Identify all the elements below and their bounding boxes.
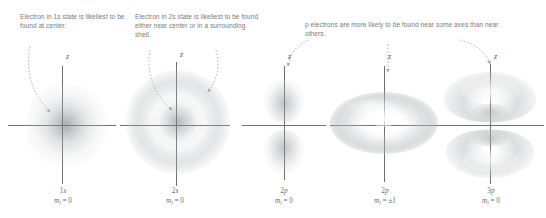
electron-lobe-lower-highlight	[462, 148, 518, 172]
electron-cloud-2s-core	[152, 96, 204, 148]
electron-lobe-upper	[264, 78, 304, 122]
z-axis-label: z	[180, 50, 183, 59]
quantum-number-3p-m0: ml = 0	[438, 197, 544, 206]
z-axis-label: z	[288, 52, 291, 61]
orbital-name-2s: 2s	[120, 186, 230, 195]
label-2s: 2s ml = 0	[120, 186, 230, 206]
label-1s: 1s ml = 0	[8, 186, 118, 206]
electron-lobe-lower-inner	[472, 128, 508, 146]
quantum-number-2p-m1: ml = ±1	[330, 197, 440, 206]
z-axis-label: z	[388, 52, 391, 61]
z-axis-label: z	[494, 52, 497, 61]
quantum-number-2s: ml = 0	[120, 197, 230, 206]
label-3p-m0: 3p ml = 0	[438, 186, 544, 206]
z-axis-label: z	[66, 52, 69, 61]
orbital-diagram: Electron in 1s state is likeliest to be …	[0, 0, 546, 218]
label-2p-m0: 2p ml = 0	[238, 186, 330, 206]
electron-lobe-upper-highlight	[460, 78, 520, 104]
quantum-number-1s: ml = 0	[8, 197, 118, 206]
electron-lobe-upper-inner	[472, 104, 508, 124]
electron-cloud-1s	[24, 83, 108, 167]
horizontal-axis	[438, 125, 544, 126]
orbital-name-2p-m0: 2p	[238, 186, 330, 195]
orbital-name-3p-m0: 3p	[438, 186, 544, 195]
electron-lobe-lower	[264, 130, 304, 174]
quantum-number-2p-m0: ml = 0	[238, 197, 330, 206]
orbital-name-2p-m1: 2p	[330, 186, 440, 195]
label-2p-m1: 2p ml = ±1	[330, 186, 440, 206]
torus-center-hole	[368, 110, 400, 127]
orbital-name-1s: 1s	[8, 186, 118, 195]
